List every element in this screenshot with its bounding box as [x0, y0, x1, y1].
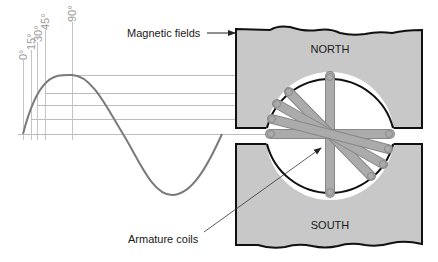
magnetic-fields-label: Magnetic fields: [127, 27, 201, 39]
armature-coils-label: Armature coils: [128, 233, 199, 245]
degree-labels: 0° 15° 30° 45° 90°: [17, 5, 78, 60]
angle-label-0: 0°: [17, 49, 29, 60]
south-label: SOUTH: [311, 219, 350, 231]
north-label: NORTH: [311, 43, 350, 55]
angle-label-45: 45°: [39, 13, 51, 30]
diagram-canvas: 0° 15° 30° 45° 90°: [0, 0, 438, 262]
ac-generator-diagram: 0° 15° 30° 45° 90°: [0, 0, 438, 262]
angle-label-90: 90°: [66, 5, 78, 22]
